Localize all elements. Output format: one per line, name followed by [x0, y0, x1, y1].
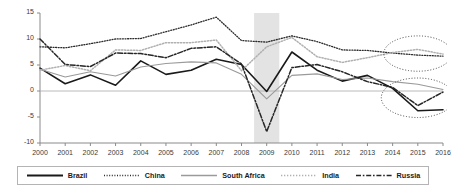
dashdot-dark-line-key [355, 172, 393, 179]
legend-item-china[interactable]: China [103, 171, 165, 180]
x-axis-tick-label: 2010 [279, 149, 305, 156]
x-axis-tick-label: 2004 [128, 149, 154, 156]
legend-label: Brazil [68, 171, 88, 180]
x-axis-tick-label: 2003 [103, 149, 129, 156]
x-axis-tick-label: 2002 [77, 149, 103, 156]
x-axis-tick-label: 2014 [380, 149, 406, 156]
x-axis-tick-label: 2001 [52, 149, 78, 156]
x-axis-tick-label: 2012 [329, 149, 355, 156]
solid-dark-line-key [26, 172, 64, 179]
x-axis-tick-label: 2011 [304, 149, 330, 156]
x-axis-tick-label: 2013 [354, 149, 380, 156]
y-axis-tick-label: 0 [8, 86, 34, 93]
x-axis-tick-label: 2009 [254, 149, 280, 156]
legend-label: China [145, 171, 165, 180]
series-line-china [40, 17, 443, 56]
dotted-gray-line-key [280, 172, 318, 179]
legend-label: India [322, 171, 339, 180]
legend-label: South Africa [222, 171, 264, 180]
x-axis-tick-label: 2005 [153, 149, 179, 156]
dotted-dark-line-key [103, 172, 141, 179]
y-axis-tick-label: -10 [8, 138, 34, 145]
x-axis-tick-label: 2007 [203, 149, 229, 156]
legend-item-russia[interactable]: Russia [355, 171, 421, 180]
x-axis-tick-label: 2015 [405, 149, 431, 156]
x-axis-tick-label: 2006 [178, 149, 204, 156]
legend-item-india[interactable]: India [280, 171, 339, 180]
x-axis-tick-label: 2016 [430, 149, 456, 156]
legend-item-south-africa[interactable]: South Africa [180, 171, 264, 180]
chart-legend: BrazilChinaSouth AfricaIndiaRussia [17, 166, 429, 185]
x-axis-tick-label: 2000 [27, 149, 53, 156]
series-line-south-africa [40, 62, 443, 99]
solid-gray-line-key [180, 172, 218, 179]
y-axis-tick-label: 15 [8, 8, 34, 15]
y-axis-tick-label: 10 [8, 34, 34, 41]
legend-label: Russia [397, 171, 421, 180]
legend-item-brazil[interactable]: Brazil [26, 171, 88, 180]
x-axis-tick-label: 2008 [229, 149, 255, 156]
y-axis-tick-label: -5 [8, 112, 34, 119]
series-line-russia [40, 39, 443, 132]
y-axis-tick-label: 5 [8, 60, 34, 67]
